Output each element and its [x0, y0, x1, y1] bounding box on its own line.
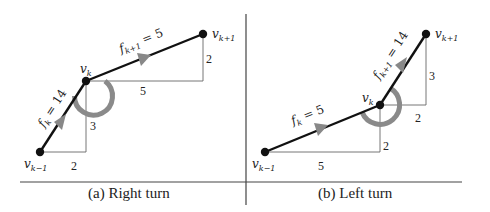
vertex-next [422, 30, 430, 38]
vertex-prev [36, 148, 44, 156]
turn-angle-arc [74, 81, 112, 115]
vertex-next [199, 30, 207, 38]
edge-fk1-label: fk+1 = 14 [369, 28, 413, 83]
dim-dx1: 5 [318, 159, 324, 173]
guide-lines [265, 34, 426, 152]
direction-arrow-icon [314, 123, 328, 136]
direction-arrow-icon [137, 53, 151, 66]
dim-dy1: 2 [383, 139, 389, 153]
dim-dy1: 3 [90, 119, 96, 133]
vertex-prev-label: vk−1 [252, 157, 275, 173]
dim-dx1: 2 [71, 159, 77, 173]
vertex-prev [261, 148, 269, 156]
vertex-next-label: vk+1 [212, 27, 235, 43]
vertex-cur [82, 77, 90, 85]
dim-dx2: 5 [140, 84, 146, 98]
panel-a-caption: (a) Right turn [88, 185, 170, 202]
edge-fk-label: fk = 14 [34, 86, 71, 131]
vertex-prev-label: vk−1 [24, 157, 47, 173]
dim-dy2: 2 [206, 52, 212, 66]
dim-dy2: 3 [429, 69, 435, 83]
panel-a-right-turn: vk−1 vk vk+1 fk = 14 fk+1 = 5 2 3 5 2 (a… [24, 25, 235, 202]
dim-dx2: 2 [415, 111, 421, 125]
panel-b-left-turn: vk−1 vk vk+1 fk = 5 fk+1 = 14 5 2 2 3 (b… [252, 27, 458, 202]
turn-diagram: vk−1 vk vk+1 fk = 14 fk+1 = 5 2 3 5 2 (a… [0, 0, 490, 212]
vertex-next-label: vk+1 [435, 27, 458, 43]
vertex-cur-label: vk [80, 62, 92, 78]
vertex-cur-label: vk [362, 91, 374, 107]
vertex-cur [376, 101, 384, 109]
panel-b-caption: (b) Left turn [318, 185, 393, 202]
